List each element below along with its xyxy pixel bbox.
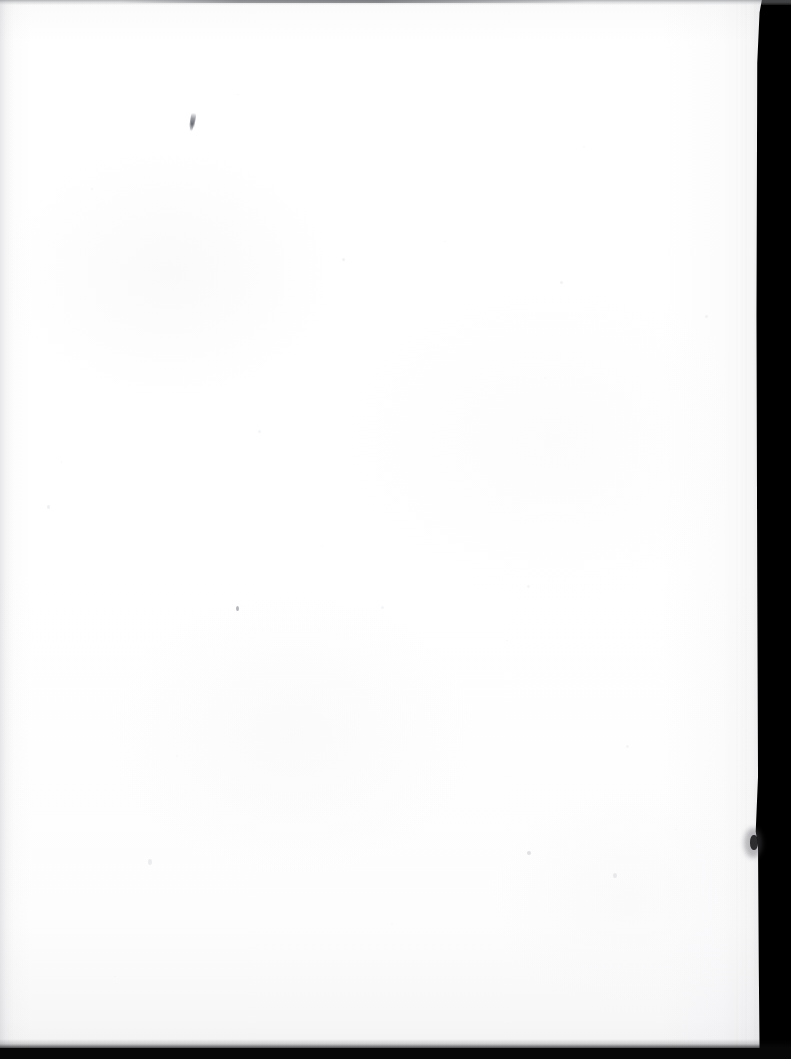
paper-speck [705,315,708,318]
paper-speck [342,258,345,261]
paper-speck [626,745,629,748]
top-scan-edge-dark-band [120,0,590,3]
paper-speck [236,606,239,611]
paper-speck [381,606,384,609]
gutter-edge-shadow [0,0,14,1050]
paper-speck [613,873,617,878]
paper-sheet [0,0,768,1050]
paper-speck [258,430,261,433]
bottom-scan-edge-strip [0,1048,791,1059]
paper-speck [527,851,531,855]
bottom-scan-edge-feather [0,1039,791,1048]
paper-speck [47,505,50,509]
paper-speck [148,859,152,865]
scanned-page-frame [0,0,791,1059]
page-body-text [95,120,655,950]
paper-speck [560,281,563,284]
fore-edge-nick [750,835,758,850]
paper-speck [527,585,530,588]
